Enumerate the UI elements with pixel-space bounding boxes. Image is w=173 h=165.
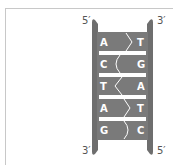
separator — [99, 95, 146, 99]
base-3-left: T — [100, 81, 107, 92]
separator — [99, 51, 146, 55]
base-4-right: T — [137, 103, 144, 114]
base-1-right: T — [137, 37, 144, 48]
base-3-right: A — [137, 81, 145, 92]
base-5-right: C — [137, 125, 144, 136]
separator — [99, 73, 146, 77]
separator — [99, 117, 146, 121]
dna-ladder: A T C G T A A T G C — [0, 0, 173, 165]
base-4-left: A — [100, 103, 108, 114]
base-1-left: A — [100, 37, 108, 48]
base-2-left: C — [100, 59, 107, 70]
base-2-right: G — [137, 59, 145, 70]
base-5-left: G — [100, 125, 108, 136]
